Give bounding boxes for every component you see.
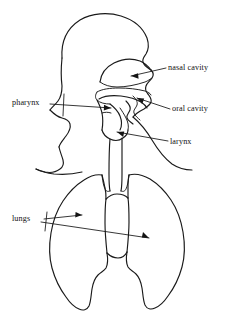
label-oral-cavity: oral cavity [172,105,208,113]
arrow-to-left-lung [44,212,82,219]
anatomy-illustration [0,0,234,328]
label-lungs: lungs [12,215,30,223]
bronchi-outline [102,175,129,191]
arrow-to-right-lung [41,212,149,238]
arrow-to-nasal-cavity [131,68,166,79]
right-lung-outline [50,175,108,310]
respiratory-system-diagram: nasal cavity pharynx oral cavity larynx … [0,0,234,328]
larynx-outline [102,108,128,140]
label-nasal-cavity: nasal cavity [168,64,208,72]
left-lung-outline [126,174,184,309]
label-pharynx: pharynx [12,99,40,107]
trachea-outline [109,138,122,191]
neck-outline [36,110,70,172]
heart-notch-outline [106,194,128,258]
label-larynx: larynx [170,138,192,146]
pharynx-outline [97,100,111,130]
head-outline [50,14,151,110]
arrow-to-oral-cavity [137,98,170,109]
